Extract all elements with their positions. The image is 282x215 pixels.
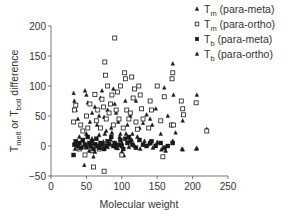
open-square-marker: [133, 87, 137, 91]
open-square-marker: [94, 119, 98, 123]
open-square-marker: [111, 123, 115, 127]
open-square-marker: [93, 92, 97, 96]
triangle-marker: [124, 132, 128, 136]
open-square-marker: [138, 93, 142, 97]
x-tick-label: 150: [149, 181, 166, 192]
open-square-marker: [137, 84, 141, 88]
open-square-marker: [108, 102, 112, 106]
y-label-sub2: boil: [14, 98, 23, 110]
open-square-marker: [104, 117, 108, 121]
open-square-marker: [205, 129, 209, 133]
filled-square-marker: [94, 137, 98, 141]
legend: Tm (para-meta)Tm (para-ortho)Tb (para-me…: [195, 3, 275, 63]
open-square-marker: [114, 108, 118, 112]
open-square-marker: [194, 101, 198, 105]
open-square-marker: [181, 113, 185, 117]
open-square-marker: [162, 95, 166, 99]
triangle-marker: [135, 135, 139, 139]
legend-item: Tb (para-meta): [195, 33, 272, 48]
open-square-marker: [74, 103, 78, 107]
open-square-marker: [72, 108, 76, 112]
open-square-marker: [91, 165, 95, 169]
y-tick-label: 200: [29, 21, 46, 32]
filled-square-marker: [154, 144, 158, 148]
open-square-marker: [141, 117, 145, 121]
x-axis-label: Molecular weight: [100, 198, 179, 210]
triangle-marker: [72, 91, 76, 95]
filled-square-marker: [150, 139, 154, 143]
open-square-marker: [150, 108, 154, 112]
y-label-sub1: melt: [14, 131, 23, 146]
open-square-marker: [195, 22, 199, 26]
open-square-marker: [113, 36, 117, 40]
triangle-marker: [124, 99, 128, 103]
filled-square-marker: [159, 141, 163, 145]
open-square-marker: [106, 84, 110, 88]
triangle-marker: [97, 114, 101, 118]
axes: −50050100150200 050100150200250: [29, 21, 237, 193]
open-square-marker: [81, 129, 85, 133]
open-square-marker: [84, 114, 88, 118]
y-axis-label: Tmelt or Tboil difference: [8, 50, 23, 153]
filled-square-marker: [109, 135, 113, 139]
open-square-marker: [99, 126, 103, 130]
triangle-marker: [100, 89, 104, 93]
triangle-marker: [110, 130, 114, 134]
open-square-marker: [107, 111, 111, 115]
filled-square-marker: [121, 147, 125, 151]
y-tick-label: 100: [29, 81, 46, 92]
y-label-mid: or T: [8, 110, 20, 132]
triangle-marker: [195, 7, 199, 11]
open-square-marker: [170, 77, 174, 81]
open-square-marker: [96, 108, 100, 112]
triangle-marker: [113, 102, 117, 106]
open-square-marker: [123, 71, 127, 75]
open-square-marker: [131, 96, 135, 100]
open-square-marker: [181, 107, 185, 111]
open-square-marker: [147, 126, 151, 130]
open-square-marker: [120, 153, 124, 157]
open-square-marker: [179, 99, 183, 103]
triangle-marker: [90, 111, 94, 115]
open-square-marker: [134, 120, 138, 124]
triangle-marker: [83, 89, 87, 93]
triangle-marker: [82, 163, 86, 167]
open-square-marker: [171, 123, 175, 127]
x-tick-label: 250: [220, 181, 237, 192]
scatter-chart: −50050100150200 050100150200250 Molecula…: [0, 0, 282, 215]
open-square-marker: [171, 71, 175, 75]
y-tick-label: 150: [29, 51, 46, 62]
x-tick-label: 200: [184, 181, 201, 192]
open-square-marker: [83, 153, 87, 157]
legend-item: Tb (para-ortho): [195, 48, 273, 63]
triangle-marker: [159, 132, 163, 136]
triangle-marker: [166, 114, 170, 118]
open-square-marker: [121, 126, 125, 130]
triangle-marker: [92, 155, 96, 159]
triangle-marker: [131, 132, 135, 136]
triangle-marker: [138, 147, 142, 151]
triangle-marker: [88, 120, 92, 124]
triangle-marker: [181, 119, 185, 123]
open-square-marker: [118, 84, 122, 88]
open-square-marker: [110, 93, 114, 97]
y-tick-label: 0: [40, 141, 46, 152]
filled-square-marker: [166, 144, 170, 148]
open-square-marker: [88, 102, 92, 106]
triangle-marker: [119, 132, 123, 136]
open-square-marker: [140, 107, 144, 111]
open-square-marker: [159, 119, 163, 123]
legend-label: Tb (para-ortho): [204, 48, 273, 63]
triangle-marker: [97, 133, 101, 137]
open-square-marker: [127, 117, 131, 121]
open-square-marker: [79, 123, 83, 127]
open-square-marker: [155, 84, 159, 88]
triangle-marker: [90, 136, 94, 140]
triangle-marker: [141, 121, 145, 125]
triangle-marker: [145, 113, 149, 117]
open-square-marker: [161, 155, 165, 159]
open-square-marker: [101, 105, 105, 109]
triangle-marker: [174, 131, 178, 135]
filled-square-marker: [72, 153, 76, 157]
open-square-marker: [103, 60, 107, 64]
